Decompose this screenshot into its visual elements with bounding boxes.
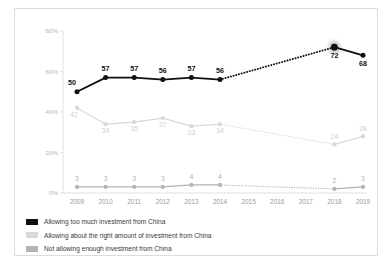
legend-swatch-black [26,219,38,225]
data-label: 37 [159,121,167,128]
data-point[interactable] [75,89,80,94]
y-axis-ticks [60,31,63,193]
data-label: 34 [216,127,224,134]
legend-item-too-much[interactable]: Allowing too much investment from China [26,215,366,229]
data-label: 24 [331,133,339,140]
series-line-solid [334,136,363,144]
x-tick-label: 2016 [270,198,285,205]
data-point[interactable] [161,185,165,189]
series-layer [75,43,366,191]
data-label: 3 [132,175,136,182]
legend-item-right-amount[interactable]: Allowing about the right amount of inves… [26,229,366,243]
data-point[interactable] [361,185,365,189]
data-label: 3 [161,175,165,182]
data-point[interactable] [189,183,193,187]
data-point[interactable] [218,183,222,187]
data-label: 4 [190,173,194,180]
legend-label: Not allowing enough investment from Chin… [44,245,172,252]
data-label: 4 [218,173,222,180]
x-tick-label: 2011 [127,198,141,205]
data-label-layer: 5057575657567268423435373334242833334423 [68,51,367,184]
legend-swatch-gray [26,246,38,252]
data-point[interactable] [332,142,336,146]
x-tick-label: 2009 [70,198,85,205]
legend-item-not-enough[interactable]: Not allowing enough investment from Chin… [26,242,366,256]
data-label: 35 [130,125,138,132]
series-line-solid [77,108,220,126]
data-point[interactable] [75,106,79,110]
data-point[interactable] [361,134,365,138]
series-line-dotted [220,185,334,189]
data-label: 56 [159,66,167,75]
data-point[interactable] [218,122,222,126]
y-tick-label: 0% [49,189,58,196]
data-point[interactable] [75,185,79,189]
data-point[interactable] [331,44,338,51]
x-tick-label: 2015 [241,198,256,205]
data-label: 68 [359,59,367,68]
data-label: 57 [187,64,195,73]
data-point[interactable] [132,75,137,80]
data-label: 34 [102,127,110,134]
legend-label: Allowing about the right amount of inves… [44,232,212,239]
data-point[interactable] [332,187,336,191]
y-tick-label: 40% [46,108,59,115]
legend-swatch-lightgray [26,232,38,238]
data-label: 72 [330,51,338,60]
data-label: 33 [188,129,196,136]
series-line-solid [77,78,220,92]
data-point[interactable] [161,116,165,120]
data-label: 57 [102,64,110,73]
data-label: 3 [75,175,79,182]
data-label: 42 [70,111,78,118]
data-point[interactable] [132,185,136,189]
series-line-dotted [220,124,334,144]
data-point[interactable] [218,77,223,82]
data-point[interactable] [132,120,136,124]
data-point[interactable] [361,53,366,58]
series-line-solid [77,185,220,187]
data-label: 57 [130,64,138,73]
data-label: 50 [68,78,76,87]
chart-card: 80% 60% 40% 20% 0% 2009 2010 2011 2012 2… [14,8,378,256]
x-axis-labels: 2009 2010 2011 2012 2013 2014 2015 2016 … [70,198,371,205]
chart-legend: Allowing too much investment from China … [26,215,366,256]
y-axis-labels: 80% 60% 40% 20% 0% [46,27,59,196]
y-tick-label: 60% [46,68,59,75]
series-2 [75,183,365,191]
data-point[interactable] [189,124,193,128]
x-tick-label: 2019 [356,198,371,205]
data-label: 28 [359,125,367,132]
data-label: 56 [216,66,224,75]
data-point[interactable] [160,77,165,82]
data-point[interactable] [189,75,194,80]
y-tick-label: 20% [46,149,59,156]
y-tick-label: 80% [46,27,59,34]
series-line-dotted [220,47,334,79]
legend-label: Allowing too much investment from China [44,218,165,225]
x-tick-label: 2014 [213,198,228,205]
data-point[interactable] [104,122,108,126]
x-tick-label: 2013 [184,198,199,205]
data-label: 3 [361,175,365,182]
x-tick-label: 2018 [327,198,342,205]
data-point[interactable] [104,185,108,189]
x-tick-label: 2017 [299,198,314,205]
data-label: 3 [104,175,108,182]
series-line-solid [334,187,363,189]
x-tick-label: 2012 [156,198,171,205]
data-point[interactable] [103,75,108,80]
data-label: 2 [333,177,337,184]
x-tick-label: 2010 [98,198,113,205]
